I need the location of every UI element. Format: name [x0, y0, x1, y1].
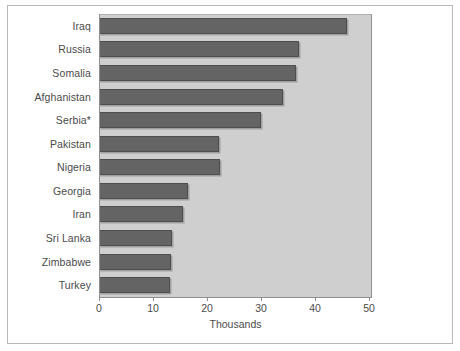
bar-row [99, 250, 372, 274]
bar-row [99, 61, 372, 85]
bar-series [99, 14, 372, 297]
category-label: Sri Lanka [0, 226, 95, 250]
x-tick-label: 0 [96, 302, 102, 314]
category-axis-labels: IraqRussiaSomaliaAfghanistanSerbia*Pakis… [0, 14, 95, 297]
bar [99, 65, 296, 81]
x-tick [99, 297, 100, 301]
bar [99, 89, 283, 105]
bar-row [99, 179, 372, 203]
bar [99, 230, 172, 246]
bar-row [99, 155, 372, 179]
bar [99, 277, 170, 293]
bar [99, 206, 183, 222]
bar-row [99, 108, 372, 132]
category-label: Nigeria [0, 155, 95, 179]
y-axis-line [99, 14, 100, 298]
x-tick-label: 50 [363, 302, 375, 314]
x-axis-line [99, 297, 372, 298]
category-label: Russia [0, 38, 95, 62]
category-label: Afghanistan [0, 85, 95, 109]
category-label: Somalia [0, 61, 95, 85]
x-tick-label: 20 [201, 302, 213, 314]
category-label: Serbia* [0, 108, 95, 132]
x-tick [369, 297, 370, 301]
bar-row [99, 273, 372, 297]
bar-row [99, 203, 372, 227]
x-tick [153, 297, 154, 301]
x-tick-label: 10 [147, 302, 159, 314]
category-label: Turkey [0, 273, 95, 297]
category-label: Zimbabwe [0, 250, 95, 274]
bar [99, 136, 219, 152]
bar [99, 254, 171, 270]
category-label: Iran [0, 203, 95, 227]
bar [99, 41, 299, 57]
x-tick-label: 30 [255, 302, 267, 314]
x-tick [315, 297, 316, 301]
bar-row [99, 14, 372, 38]
bar-row [99, 38, 372, 62]
category-label: Georgia [0, 179, 95, 203]
bar-chart-figure: IraqRussiaSomaliaAfghanistanSerbia*Pakis… [0, 0, 460, 351]
bar [99, 159, 220, 175]
x-tick [261, 297, 262, 301]
x-tick [207, 297, 208, 301]
category-label: Pakistan [0, 132, 95, 156]
category-label: Iraq [0, 14, 95, 38]
bar-row [99, 226, 372, 250]
bar [99, 112, 261, 128]
bar-row [99, 85, 372, 109]
x-axis-title: Thousands [99, 318, 372, 330]
bar [99, 183, 188, 199]
bar [99, 18, 347, 34]
bar-row [99, 132, 372, 156]
x-tick-label: 40 [309, 302, 321, 314]
